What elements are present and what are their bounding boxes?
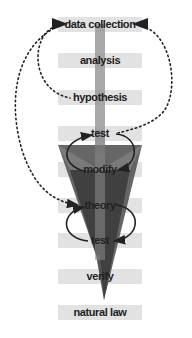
step-label-test-1: test [58, 126, 142, 141]
step-label-data-collection: data collection [58, 17, 142, 32]
step-label-test-2: test [58, 233, 142, 248]
step-label-verify: verify [58, 269, 142, 284]
step-label-analysis: analysis [58, 53, 142, 68]
step-label-natural-law: natural law [58, 305, 142, 320]
step-label-theory: theory [58, 198, 142, 213]
step-label-hypothesis: hypothesis [58, 90, 142, 105]
dotted-loop-test [118, 26, 172, 133]
step-label-modify: modify [58, 162, 142, 177]
